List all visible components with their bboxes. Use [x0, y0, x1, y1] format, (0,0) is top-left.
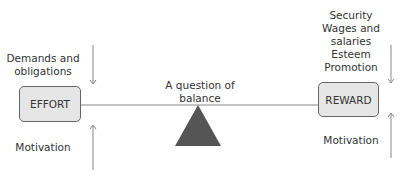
effort-box: EFFORT — [19, 86, 81, 122]
reward-label: REWARD — [325, 94, 371, 106]
effort-label: EFFORT — [30, 98, 70, 110]
left-motivation-label: Motivation — [0, 141, 86, 154]
reward-item: salaries — [318, 35, 384, 48]
reward-item: Wages and — [318, 22, 384, 35]
rewards-list: Security Wages and salaries Esteem Promo… — [318, 9, 384, 74]
reward-item: Promotion — [318, 61, 384, 74]
right-motivation-label: Motivation — [318, 134, 384, 147]
reward-item: Esteem — [318, 48, 384, 61]
left-down-arrow-icon — [90, 45, 96, 84]
demands-label: Demands and obligations — [0, 52, 86, 78]
reward-item: Security — [318, 9, 384, 22]
right-down-arrow-icon — [388, 45, 394, 83]
demands-line-2: obligations — [0, 65, 86, 78]
balance-title: A question of balance — [145, 79, 255, 105]
left-up-arrow-icon — [90, 125, 96, 170]
reward-box: REWARD — [318, 82, 379, 117]
demands-line-1: Demands and — [0, 52, 86, 65]
fulcrum-triangle-icon — [175, 105, 221, 146]
right-up-arrow-icon — [388, 113, 394, 158]
